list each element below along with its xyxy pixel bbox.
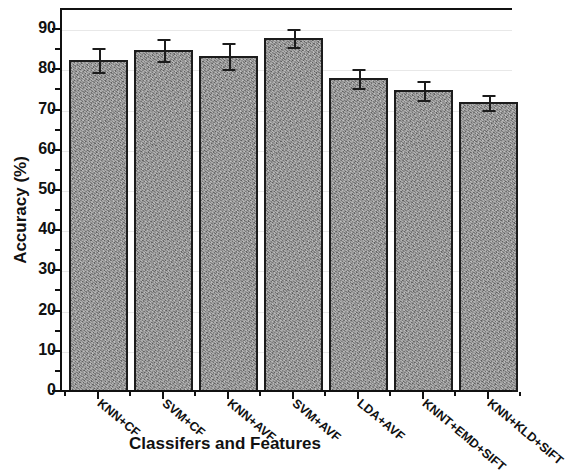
x-axis-tick-major (97, 392, 99, 399)
error-bar-cap-upper (157, 39, 170, 41)
y-axis-tick-major (52, 350, 60, 352)
y-axis-tick-minor (55, 249, 60, 251)
y-axis-tick-major (52, 229, 60, 231)
y-axis-tick-label: 20 (22, 302, 56, 318)
error-bar (294, 29, 296, 47)
x-axis-tick-major (162, 392, 164, 399)
plot-area (60, 8, 512, 392)
y-axis-tick-minor (55, 370, 60, 372)
plot-inner (62, 10, 512, 392)
y-axis-tick-minor (55, 88, 60, 90)
error-bar-cap-lower (482, 110, 495, 112)
error-bar-cap-upper (352, 69, 365, 71)
error-bar-cap-lower (157, 61, 170, 63)
y-axis-tick-major (52, 149, 60, 151)
x-axis-line (60, 390, 512, 392)
bar (459, 102, 518, 392)
y-axis-tick-minor (55, 209, 60, 211)
y-axis-tick-minor (55, 129, 60, 131)
x-axis-tick-minor (389, 392, 391, 396)
x-axis-tick-major (227, 392, 229, 399)
error-bar-cap-upper (287, 29, 300, 31)
y-axis-tick-major (52, 310, 60, 312)
x-axis-tick-minor (454, 392, 456, 396)
error-bar-cap-lower (417, 100, 430, 102)
error-bar-cap-upper (92, 48, 105, 50)
error-bar-cap-upper (482, 95, 495, 97)
x-axis-tick-minor (129, 392, 131, 396)
y-axis-tick-major (52, 109, 60, 111)
y-axis-tick-major (52, 269, 60, 271)
bar (134, 50, 193, 392)
error-bar-cap-lower (287, 47, 300, 49)
error-bar-cap-upper (417, 81, 430, 83)
bar (199, 56, 258, 392)
y-axis-tick-major (52, 28, 60, 30)
y-axis-tick-minor (55, 169, 60, 171)
x-axis-tick-major (292, 392, 294, 399)
bar (329, 78, 388, 392)
y-axis-tick-minor (55, 48, 60, 50)
y-axis-tick-minor (55, 330, 60, 332)
bar (69, 60, 128, 392)
y-axis-tick-label: 80 (22, 60, 56, 76)
y-axis-tick-label: 60 (22, 141, 56, 157)
x-axis-tick-minor (519, 392, 521, 396)
y-axis-tick-label: 90 (22, 20, 56, 36)
error-bar-cap-upper (222, 43, 235, 45)
x-axis-tick-minor (324, 392, 326, 396)
y-axis-tick-label: 0 (22, 382, 56, 398)
x-axis-tick-major (487, 392, 489, 399)
error-bar (424, 81, 426, 100)
x-axis-tick-minor (259, 392, 261, 396)
bar (264, 38, 323, 392)
y-axis-tick-minor (55, 289, 60, 291)
y-axis-tick-label: 10 (22, 342, 56, 358)
bar (394, 90, 453, 392)
error-bar (229, 43, 231, 69)
error-bar (164, 39, 166, 61)
y-axis-tick-label: 30 (22, 261, 56, 277)
y-axis-tick-label: 70 (22, 101, 56, 117)
x-axis-title: Classifers and Features (60, 434, 390, 454)
error-bar-cap-lower (222, 69, 235, 71)
y-axis-tick-label: 50 (22, 181, 56, 197)
error-bar-cap-lower (352, 88, 365, 90)
x-axis-tick-minor (64, 392, 66, 396)
x-axis-tick-major (357, 392, 359, 399)
error-bar-cap-lower (92, 72, 105, 74)
y-axis-tick-label-layer: 0102030405060708090 (20, 0, 56, 457)
error-bar (359, 69, 361, 87)
y-axis-tick-major (52, 189, 60, 191)
x-axis-tick-major (422, 392, 424, 399)
y-axis-tick-major (52, 390, 60, 392)
error-bar (489, 95, 491, 109)
y-axis-tick-label: 40 (22, 221, 56, 237)
x-axis-tick-minor (194, 392, 196, 396)
y-axis-tick-major (52, 68, 60, 70)
error-bar (99, 48, 101, 72)
